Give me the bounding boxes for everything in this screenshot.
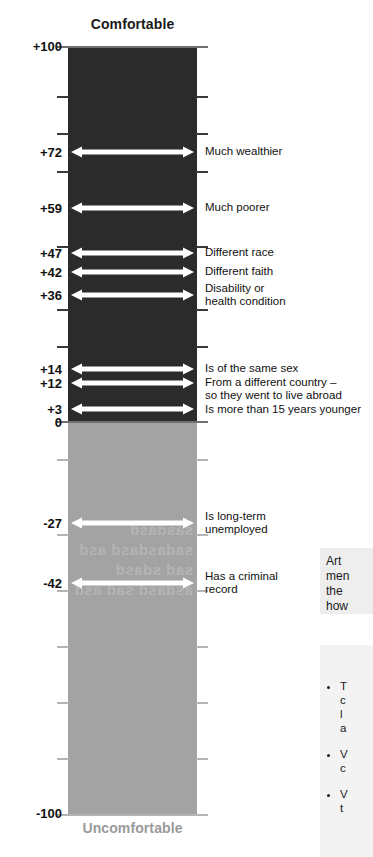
- data-value-label: -42: [43, 576, 62, 591]
- list-item: T c l a: [340, 679, 373, 735]
- bar-negative-region: [68, 422, 197, 815]
- category-label: Disability or health condition: [205, 282, 373, 308]
- range-arrow: [70, 402, 195, 416]
- range-arrow: [70, 246, 195, 260]
- tick-left: [57, 133, 69, 135]
- axis-value-top: +100: [33, 39, 62, 54]
- tick-right: [196, 758, 208, 760]
- tick-left: [57, 459, 69, 461]
- side-note-text: Art men the how of E: [326, 554, 373, 614]
- side-bullets-list: T c l a V c V t: [326, 679, 373, 815]
- data-value-label: +42: [40, 265, 62, 280]
- list-item: V t: [340, 787, 373, 815]
- category-label: Much poorer: [205, 201, 373, 214]
- category-label: Is long-term unemployed: [205, 510, 373, 536]
- data-value-label: +3: [47, 402, 62, 417]
- tick-right: [196, 171, 208, 173]
- data-value-label: +72: [40, 145, 62, 160]
- axis-value-zero: 0: [55, 415, 62, 430]
- data-value-label: +36: [40, 288, 62, 303]
- data-value-label: -27: [43, 516, 62, 531]
- axis-rule-top: [57, 46, 208, 48]
- tick-left: [57, 534, 69, 536]
- axis-value-bottom: -100: [36, 806, 62, 821]
- category-label: Different faith: [205, 265, 373, 278]
- data-value-label: +59: [40, 201, 62, 216]
- category-label: From a different country – so they went …: [205, 376, 373, 402]
- tick-right: [196, 346, 208, 348]
- axis-top-caption: Comfortable: [68, 16, 197, 32]
- tick-left: [57, 96, 69, 98]
- tick-right: [196, 459, 208, 461]
- data-value-label: +14: [40, 362, 62, 377]
- tick-right: [196, 309, 208, 311]
- side-bullets-panel: T c l a V c V t: [320, 645, 373, 857]
- range-arrow: [70, 576, 195, 590]
- range-arrow: [70, 362, 195, 376]
- category-label: Much wealthier: [205, 145, 373, 158]
- range-arrow: [70, 376, 195, 390]
- list-item: V c: [340, 747, 373, 775]
- tick-left: [57, 171, 69, 173]
- tick-left: [57, 702, 69, 704]
- range-arrow: [70, 288, 195, 302]
- tick-right: [196, 646, 208, 648]
- category-label: Is more than 15 years younger: [205, 403, 373, 416]
- axis-bottom-caption: Uncomfortable: [68, 820, 197, 836]
- category-label: Is of the same sex: [205, 362, 373, 375]
- tick-right: [196, 702, 208, 704]
- tick-right: [196, 96, 208, 98]
- tick-left: [57, 646, 69, 648]
- data-value-label: +12: [40, 376, 62, 391]
- data-value-label: +47: [40, 246, 62, 261]
- comfort-scale-chart: Comfortable Uncomfortable sasdasd sadasd…: [0, 0, 373, 857]
- range-arrow: [70, 516, 195, 530]
- side-note-panel: Art men the how of E: [320, 548, 373, 614]
- range-arrow: [70, 145, 195, 159]
- tick-left: [57, 758, 69, 760]
- axis-rule-bottom: [57, 814, 208, 816]
- range-arrow: [70, 201, 195, 215]
- category-label: Different race: [205, 246, 373, 259]
- tick-left: [57, 346, 69, 348]
- axis-rule-zero: [57, 421, 208, 423]
- tick-left: [57, 309, 69, 311]
- range-arrow: [70, 265, 195, 279]
- tick-right: [196, 133, 208, 135]
